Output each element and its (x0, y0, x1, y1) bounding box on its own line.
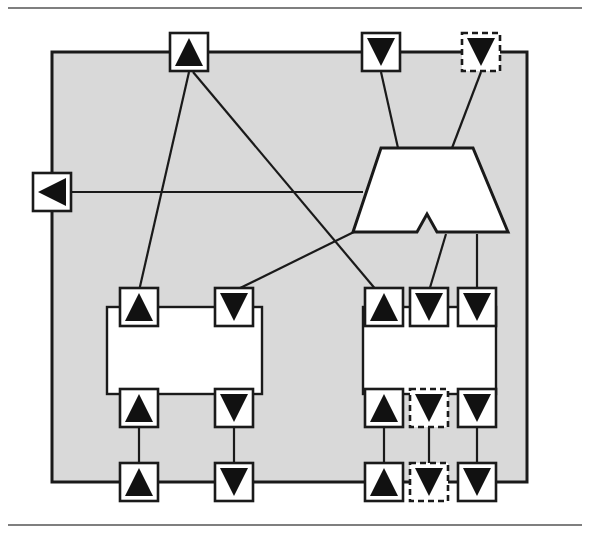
port-simple-tuner-top-left-provided[interactable] (120, 288, 158, 326)
port-searching-tuner-bottom-mid-required-optional[interactable] (410, 389, 448, 427)
port-outer-top-left-provided[interactable] (170, 33, 208, 71)
port-outer-bottom-searching-required[interactable] (458, 463, 496, 501)
port-outer-bottom-simple-required[interactable] (215, 463, 253, 501)
diagram-canvas (0, 0, 590, 534)
port-outer-top-mid-required[interactable] (362, 33, 400, 71)
port-outer-left-provided[interactable] (33, 173, 71, 211)
port-outer-bottom-searching-provided[interactable] (365, 463, 403, 501)
component-diagram (0, 0, 590, 534)
port-searching-tuner-top-mid-required[interactable] (410, 288, 448, 326)
port-simple-tuner-bottom-left-provided[interactable] (120, 389, 158, 427)
port-simple-tuner-top-right-required[interactable] (215, 288, 253, 326)
port-searching-tuner-bottom-right-required[interactable] (458, 389, 496, 427)
port-simple-tuner-bottom-right-required[interactable] (215, 389, 253, 427)
port-outer-bottom-searching-required-optional[interactable] (410, 463, 448, 501)
port-searching-tuner-top-right-required[interactable] (458, 288, 496, 326)
port-outer-bottom-simple-provided[interactable] (120, 463, 158, 501)
port-outer-top-right-required-optional[interactable] (462, 33, 500, 71)
port-searching-tuner-bottom-left-provided[interactable] (365, 389, 403, 427)
port-searching-tuner-top-left-provided[interactable] (365, 288, 403, 326)
